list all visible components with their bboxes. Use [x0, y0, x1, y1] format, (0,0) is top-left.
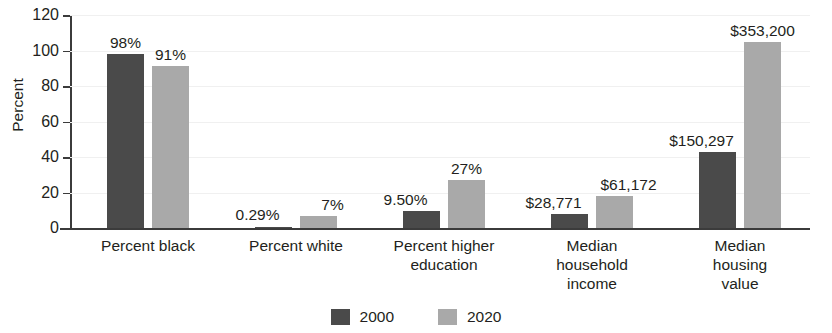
y-axis-tick-label: 0 [50, 219, 59, 237]
bar-value-label: 9.50% [384, 191, 428, 208]
y-axis-tick-label: 80 [41, 77, 59, 95]
bar: $61,172 [596, 196, 633, 228]
y-axis-tick-mark [63, 157, 70, 159]
bar-chart: Percent 020406080100120 98%91%0.29%7%9.5… [0, 0, 832, 333]
bar: 7% [300, 216, 337, 228]
bar-value-label: $353,200 [730, 22, 795, 39]
legend-item: 2020 [438, 308, 501, 326]
bar-value-label: 91% [155, 46, 186, 63]
x-axis-category-label: Median household income [556, 236, 628, 293]
bar: $353,200 [744, 42, 781, 228]
bar: 0.29% [255, 227, 292, 229]
bar-value-label: 98% [110, 34, 141, 51]
y-axis-tick-label: 100 [32, 42, 59, 60]
y-axis-tick-label: 60 [41, 113, 59, 131]
bar-value-label: $61,172 [600, 176, 656, 193]
bar-value-label: $28,771 [525, 194, 581, 211]
y-axis-tick-label: 40 [41, 148, 59, 166]
bar: 9.50% [403, 211, 440, 228]
y-axis-title: Percent [9, 65, 27, 145]
x-axis-category-label: Percent white [249, 236, 343, 255]
bar: 91% [152, 66, 189, 228]
x-axis-category-label: Percent black [101, 236, 195, 255]
bar: 98% [107, 54, 144, 228]
y-axis-tick-mark [63, 86, 70, 88]
x-axis-category-label: Percent higher education [394, 236, 495, 274]
y-axis-tick-label: 20 [41, 184, 59, 202]
bar: $150,297 [699, 152, 736, 228]
x-axis-line [60, 228, 810, 230]
bar-value-label: $150,297 [669, 132, 734, 149]
plot-area: 020406080100120 98%91%0.29%7%9.50%27%$28… [70, 15, 810, 228]
bar-value-label: 0.29% [236, 206, 280, 223]
bar: $28,771 [551, 214, 588, 228]
y-axis-tick-mark [63, 228, 70, 230]
gridline [70, 15, 810, 16]
chart-legend: 20002020 [0, 308, 832, 326]
y-axis-tick-mark [63, 15, 70, 17]
y-axis-tick-label: 120 [32, 6, 59, 24]
bar-value-label: 27% [451, 160, 482, 177]
legend-swatch-icon [331, 309, 350, 325]
y-axis-tick-mark [63, 193, 70, 195]
legend-item: 2000 [331, 308, 394, 326]
legend-swatch-icon [438, 309, 457, 325]
x-axis-category-label: Median housing value [713, 236, 767, 293]
legend-label: 2020 [467, 308, 501, 326]
bar: 27% [448, 180, 485, 228]
legend-label: 2000 [360, 308, 394, 326]
bar-value-label: 7% [321, 196, 343, 213]
y-axis-tick-mark [63, 122, 70, 124]
y-axis-tick-mark [63, 51, 70, 53]
